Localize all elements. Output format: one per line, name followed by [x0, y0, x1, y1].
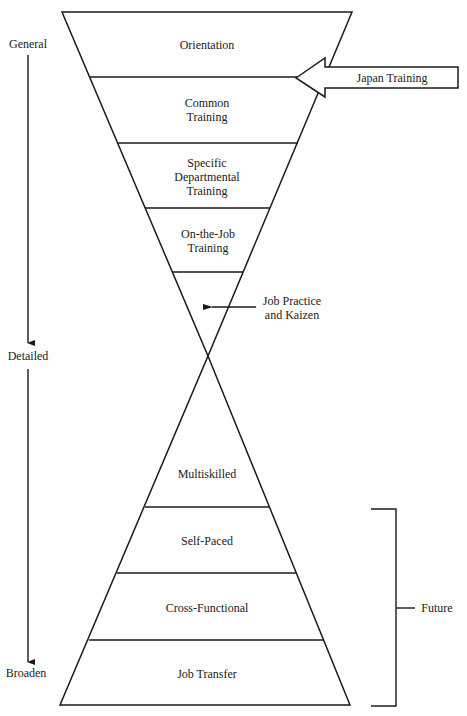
job-practice-label-1: Job Practice: [263, 294, 321, 308]
progression-axis: General Detailed Broaden: [6, 37, 49, 680]
lower-pyramid: Multiskilled Self-Paced Cross-Functional…: [60, 356, 350, 705]
future-label: Future: [421, 601, 452, 615]
band-label-common-training-2: Training: [187, 110, 228, 124]
axis-label-detailed: Detailed: [8, 349, 49, 363]
band-label-multiskilled: Multiskilled: [178, 467, 237, 481]
japan-training-callout: Japan Training: [296, 58, 458, 97]
bracket-icon: [371, 509, 396, 706]
axis-label-general: General: [9, 37, 48, 51]
axis-label-broaden: Broaden: [6, 666, 47, 680]
band-label-job-transfer: Job Transfer: [177, 667, 237, 681]
band-label-ojt-1: On-the-Job: [181, 227, 235, 241]
band-label-specific-3: Training: [187, 184, 228, 198]
band-label-orientation: Orientation: [180, 38, 235, 52]
lower-pyramid-outline: [60, 356, 350, 705]
japan-training-label: Japan Training: [356, 71, 427, 85]
training-hourglass-diagram: General Detailed Broaden Orientation Com…: [0, 0, 467, 716]
band-label-specific-2: Departmental: [174, 170, 240, 184]
band-label-self-paced: Self-Paced: [181, 534, 233, 548]
future-bracket: Future: [371, 509, 453, 706]
job-practice-label-2: and Kaizen: [265, 308, 319, 322]
band-label-ojt-2: Training: [188, 241, 229, 255]
band-label-common-training-1: Common: [185, 96, 230, 110]
band-label-specific-1: Specific: [187, 156, 226, 170]
band-label-cross-functional: Cross-Functional: [166, 601, 249, 615]
